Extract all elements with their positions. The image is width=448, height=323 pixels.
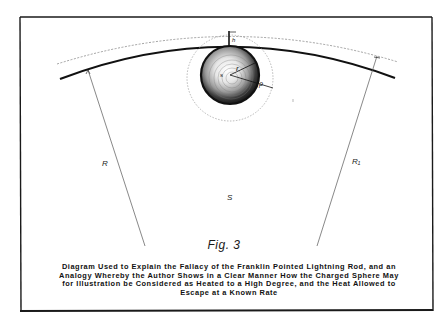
figure-title: Fig. 3 <box>0 238 448 252</box>
sphere-center-label: s <box>220 72 223 78</box>
height-label: h <box>232 37 236 43</box>
earth-radius-label: R <box>102 159 108 168</box>
sphere-radius-label: r <box>236 64 239 73</box>
earth-radius-line <box>88 70 145 246</box>
outer-earth-radius-line <box>317 56 377 246</box>
caption-line: Escape at a Known Rate <box>34 289 424 298</box>
earth-surface-label: S <box>227 193 233 202</box>
outer-earth-radius-label: R₁ <box>352 157 361 166</box>
figure-caption: Diagram Used to Explain the Fallacy of t… <box>34 263 424 297</box>
outer-radius-label: ρ <box>258 80 263 88</box>
